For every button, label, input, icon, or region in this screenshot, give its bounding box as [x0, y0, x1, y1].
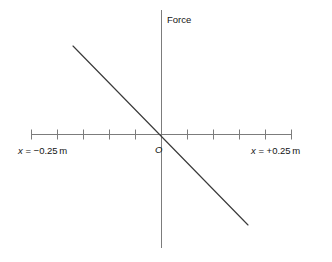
- x-value-left: −0.25: [34, 145, 58, 156]
- graph-canvas: [0, 0, 332, 262]
- x-variable-symbol: x: [251, 145, 256, 156]
- origin-label: O: [155, 145, 162, 155]
- equals-sign: =: [25, 145, 31, 156]
- x-value-right: +0.25: [267, 145, 291, 156]
- force-displacement-graph: Force O x = −0.25m x = +0.25m: [0, 0, 332, 262]
- unit-metre-left: m: [59, 145, 67, 156]
- y-axis-label: Force: [167, 15, 191, 25]
- x-axis-label-right: x = +0.25m: [251, 146, 300, 156]
- force-data-line: [73, 46, 248, 225]
- unit-metre-right: m: [292, 145, 300, 156]
- x-axis-label-left: x = −0.25m: [18, 146, 67, 156]
- x-variable-symbol: x: [18, 145, 23, 156]
- equals-sign: =: [258, 145, 264, 156]
